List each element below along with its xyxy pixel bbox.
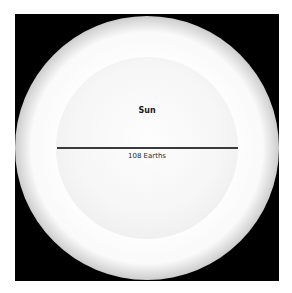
sun-label: Sun xyxy=(15,106,279,115)
diagram-frame: Sun 108 Earths xyxy=(15,14,279,281)
diameter-label: 108 Earths xyxy=(15,152,279,160)
diameter-line xyxy=(57,147,238,149)
